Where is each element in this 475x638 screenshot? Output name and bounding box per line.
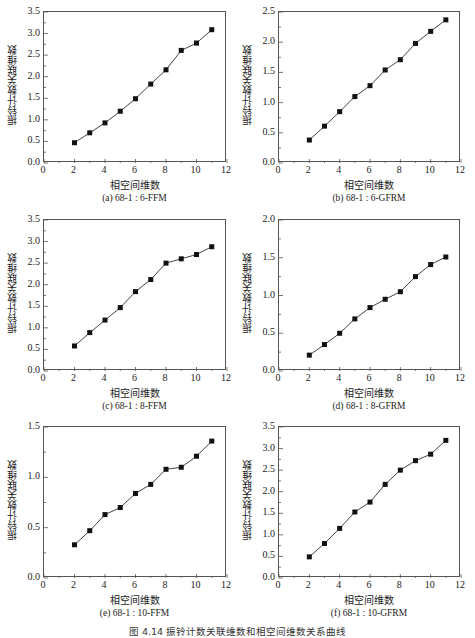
data-point-square-icon (87, 130, 92, 135)
data-point-square-icon (398, 57, 403, 62)
y-tick-label: 2.0 (253, 486, 275, 496)
x-tick-label: 0 (268, 580, 288, 590)
data-point-square-icon (72, 542, 77, 547)
x-tick-label: 12 (216, 165, 236, 175)
y-axis-label: 振铃计数关联维数 (240, 460, 255, 540)
data-line (309, 20, 446, 140)
y-tick-label: 3.5 (18, 6, 40, 16)
x-tick-label: 0 (268, 165, 288, 175)
y-tick-label: 3.0 (253, 443, 275, 453)
plot-area (43, 11, 226, 162)
x-tick-label: 8 (155, 165, 175, 175)
x-tick-label: 12 (216, 373, 236, 383)
y-tick-label: 3.0 (18, 236, 40, 246)
y-tick-label: 1.0 (18, 322, 40, 332)
plot-svg (279, 12, 461, 163)
y-tick-label: 1.0 (18, 114, 40, 124)
y-tick-label: 1.0 (253, 290, 275, 300)
x-tick-label: 10 (420, 580, 440, 590)
plot-area (43, 219, 226, 370)
chart-subcaption: (d) 68-1 : 8-GFRM (278, 401, 460, 411)
y-axis-label: 振铃计数关联维数 (5, 460, 20, 540)
y-tick-label: 1.5 (253, 252, 275, 262)
data-line (309, 440, 446, 557)
data-point-square-icon (209, 439, 214, 444)
data-line (75, 30, 212, 143)
data-point-square-icon (118, 505, 123, 510)
plot-svg (44, 220, 227, 371)
y-tick-label: 3.5 (253, 421, 275, 431)
data-point-square-icon (413, 458, 418, 463)
x-axis-label: 相空间维数 (278, 177, 460, 192)
y-tick-label: 2.0 (18, 71, 40, 81)
x-axis-label: 相空间维数 (278, 592, 460, 607)
plot-svg (279, 427, 461, 578)
data-point-square-icon (428, 452, 433, 457)
data-line (75, 247, 212, 346)
x-axis-label: 相空间维数 (43, 592, 226, 607)
x-tick-label: 0 (33, 373, 53, 383)
data-point-square-icon (352, 509, 357, 514)
y-tick-label: 1.5 (18, 421, 40, 431)
data-point-square-icon (148, 82, 153, 87)
data-point-square-icon (322, 124, 327, 129)
x-tick-label: 12 (450, 580, 470, 590)
x-tick-label: 8 (389, 373, 409, 383)
data-point-square-icon (87, 330, 92, 335)
y-tick-label: 0.5 (18, 135, 40, 145)
x-tick-label: 2 (298, 373, 318, 383)
x-tick-label: 8 (389, 165, 409, 175)
x-tick-label: 4 (94, 165, 114, 175)
x-tick-label: 4 (94, 580, 114, 590)
y-tick-label: 2.5 (18, 49, 40, 59)
data-line (75, 441, 212, 545)
data-line (309, 257, 446, 355)
y-tick-label: 0.5 (18, 343, 40, 353)
y-tick-label: 2.5 (18, 257, 40, 267)
data-point-square-icon (383, 482, 388, 487)
y-tick-label: 0.5 (18, 522, 40, 532)
x-tick-label: 2 (298, 580, 318, 590)
data-point-square-icon (209, 244, 214, 249)
data-point-square-icon (194, 41, 199, 46)
data-point-square-icon (443, 438, 448, 443)
data-point-square-icon (164, 261, 169, 266)
x-tick-label: 12 (450, 373, 470, 383)
x-tick-label: 2 (64, 580, 84, 590)
x-tick-label: 6 (125, 165, 145, 175)
x-tick-label: 0 (268, 373, 288, 383)
plot-svg (279, 220, 461, 371)
y-tick-label: 3.0 (18, 28, 40, 38)
plot-area (278, 11, 460, 162)
data-point-square-icon (322, 342, 327, 347)
x-tick-label: 8 (389, 580, 409, 590)
x-tick-label: 10 (186, 373, 206, 383)
figure-caption: 图 4.14 振铃计数关联维数和相空间维数关系曲线 (0, 624, 475, 638)
chart-subcaption: (c) 68-1 : 8-FFM (43, 401, 226, 411)
data-point-square-icon (383, 297, 388, 302)
x-tick-label: 12 (216, 580, 236, 590)
data-point-square-icon (307, 554, 312, 559)
data-point-square-icon (133, 289, 138, 294)
data-point-square-icon (118, 109, 123, 114)
y-tick-label: 1.5 (253, 507, 275, 517)
x-tick-label: 6 (125, 373, 145, 383)
x-tick-label: 4 (329, 373, 349, 383)
y-tick-label: 2.0 (253, 214, 275, 224)
x-tick-label: 6 (125, 580, 145, 590)
chart-subcaption: (e) 68-1 : 10-FFM (43, 608, 226, 618)
data-point-square-icon (103, 512, 108, 517)
data-point-square-icon (179, 465, 184, 470)
y-tick-label: 0.5 (253, 127, 275, 137)
plot-area (43, 426, 226, 577)
x-tick-label: 2 (298, 165, 318, 175)
y-tick-label: 1.0 (253, 529, 275, 539)
plot-svg (44, 427, 227, 578)
data-point-square-icon (398, 289, 403, 294)
data-point-square-icon (164, 67, 169, 72)
data-point-square-icon (352, 94, 357, 99)
data-point-square-icon (103, 318, 108, 323)
data-point-square-icon (148, 277, 153, 282)
y-tick-label: 1.0 (18, 471, 40, 481)
data-point-square-icon (413, 274, 418, 279)
